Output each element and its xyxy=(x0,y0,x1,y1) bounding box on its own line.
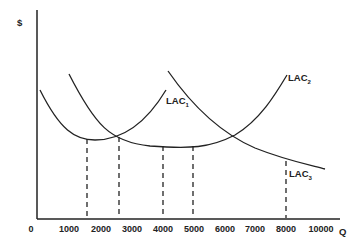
x-tick-labels: 0 1000 2000 3000 4000 5000 6000 7000 800… xyxy=(28,224,333,234)
svg-text:6000: 6000 xyxy=(215,224,235,234)
lac1-label: LAC1 xyxy=(166,95,190,108)
lac-chart: $ Q LAC1 LAC2 LAC3 0 1000 2000 3000 4000… xyxy=(0,0,360,246)
svg-text:8000: 8000 xyxy=(276,224,296,234)
svg-text:4000: 4000 xyxy=(153,224,173,234)
svg-text:10000: 10000 xyxy=(308,224,333,234)
svg-text:1000: 1000 xyxy=(59,224,79,234)
lac1-curve xyxy=(40,90,166,140)
lac3-curve xyxy=(168,71,325,169)
lac2-label: LAC2 xyxy=(288,72,312,85)
svg-text:0: 0 xyxy=(28,224,33,234)
svg-text:3000: 3000 xyxy=(122,224,142,234)
y-axis-label: $ xyxy=(17,17,23,28)
svg-text:2000: 2000 xyxy=(91,224,111,234)
lac3-label: LAC3 xyxy=(289,168,313,181)
x-axis-label: Q xyxy=(339,226,346,237)
svg-text:5000: 5000 xyxy=(184,224,204,234)
svg-text:7000: 7000 xyxy=(245,224,265,234)
